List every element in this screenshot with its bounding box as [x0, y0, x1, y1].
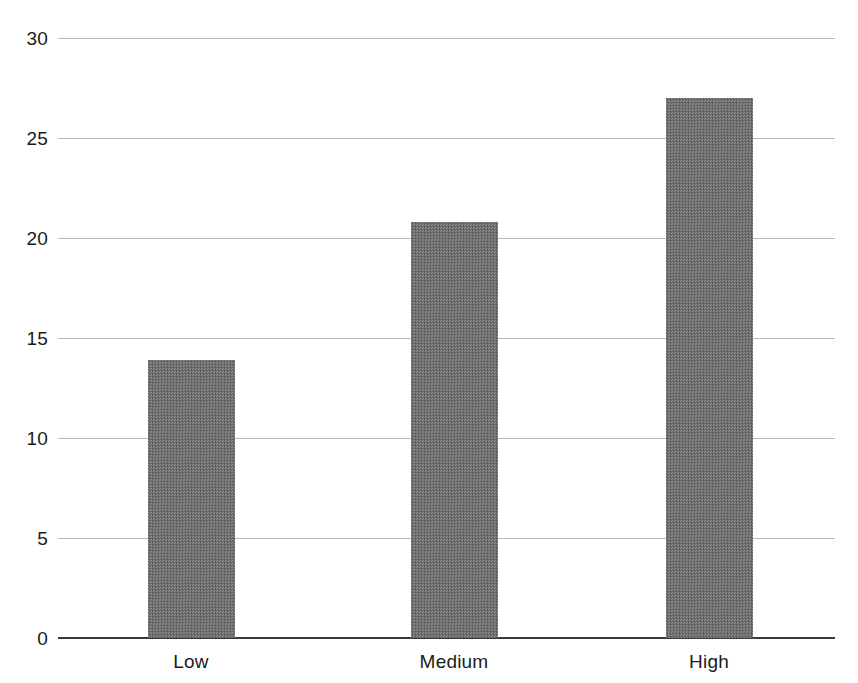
- bar-medium[interactable]: [411, 222, 498, 638]
- y-tick-label-30: 30: [8, 29, 48, 48]
- y-tick-label-20: 20: [8, 229, 48, 248]
- bar-chart: 30 25 20 15 10 5 0 Low Medium High: [0, 0, 858, 683]
- gridline-30: [58, 38, 835, 39]
- y-tick-label-25: 25: [8, 129, 48, 148]
- y-tick-label-0: 0: [8, 629, 48, 648]
- x-tick-label-high: High: [619, 651, 799, 673]
- x-tick-label-medium: Medium: [364, 651, 544, 673]
- y-tick-label-15: 15: [8, 329, 48, 348]
- y-tick-label-10: 10: [8, 429, 48, 448]
- bar-low[interactable]: [148, 360, 235, 638]
- x-tick-label-low: Low: [101, 651, 281, 673]
- plot-area: [58, 38, 835, 638]
- y-tick-label-5: 5: [8, 529, 48, 548]
- bar-high[interactable]: [666, 98, 753, 638]
